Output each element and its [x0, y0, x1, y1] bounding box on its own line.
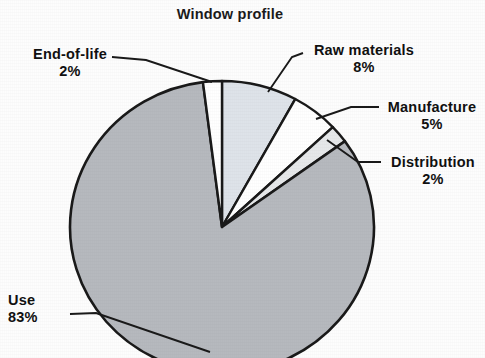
slice-label-distribution: Distribution 2%: [380, 154, 485, 188]
slice-label-raw-materials: Raw materials 8%: [298, 42, 430, 76]
slice-label-use-name: Use: [8, 292, 35, 308]
slice-label-end-of-life: End-of-life 2%: [16, 46, 124, 80]
slice-label-raw-materials-percent: 8%: [298, 59, 430, 76]
slice-label-end-of-life-percent: 2%: [16, 63, 124, 80]
leader-line-manufacture: [316, 107, 379, 119]
slice-label-distribution-percent: 2%: [380, 171, 485, 188]
slice-label-manufacture: Manufacture 5%: [378, 99, 485, 133]
pie-slices: [70, 81, 374, 358]
slice-label-manufacture-name: Manufacture: [388, 99, 476, 115]
slice-label-raw-materials-name: Raw materials: [314, 42, 414, 58]
leader-line-end-of-life: [112, 57, 212, 82]
slice-label-manufacture-percent: 5%: [378, 116, 485, 133]
slice-label-distribution-name: Distribution: [391, 154, 475, 170]
pie-chart-figure: Window profile End-of-life 2% Raw materi…: [0, 0, 485, 358]
slice-label-use-percent: 83%: [8, 309, 88, 326]
slice-label-use: Use 83%: [8, 292, 88, 326]
slice-label-end-of-life-name: End-of-life: [33, 46, 107, 62]
